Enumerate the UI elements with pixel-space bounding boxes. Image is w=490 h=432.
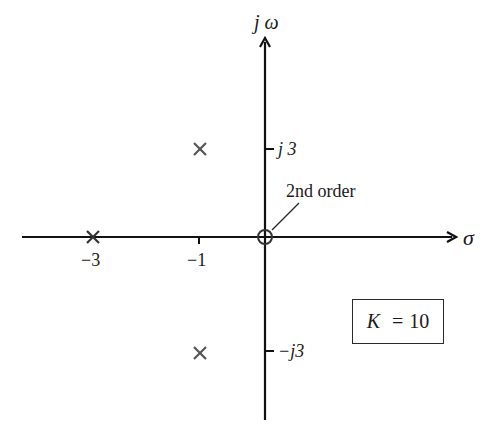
imaginary-axis-label: j ω <box>254 12 279 32</box>
pole-marker-lower <box>194 347 206 359</box>
gain-symbol: K <box>367 310 380 333</box>
tick-label-y-minus-3: −j3 <box>278 342 304 360</box>
tick-label-x-minus-3: −3 <box>81 251 100 269</box>
real-axis-label: σ <box>463 227 474 249</box>
tick-label-x-minus-1: −1 <box>187 251 206 269</box>
s-plane-diagram <box>0 0 490 432</box>
gain-value: 10 <box>409 310 429 333</box>
tick-label-y-plus-3: j 3 <box>278 140 297 158</box>
gain-equals: = <box>392 310 403 333</box>
zero-order-annotation: 2nd order <box>286 182 355 200</box>
annotation-leader-line <box>272 203 299 230</box>
gain-box: K = 10 <box>352 299 444 344</box>
pole-marker-upper <box>194 143 206 155</box>
